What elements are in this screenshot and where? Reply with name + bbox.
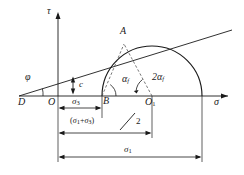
dimension-sigma3-arrow-right: [96, 106, 102, 110]
angle-label-two-alpha-f-sub: f: [162, 75, 164, 82]
sigma-axis-arrowhead: [221, 93, 228, 98]
angle-arc-alpha-f: [110, 85, 116, 96]
dimension-sigma1-arrow-left: [59, 155, 65, 159]
dimension-label-center-divisor: 2: [136, 117, 141, 126]
fraction-slash: [120, 113, 135, 130]
point-label-O: O: [48, 97, 55, 107]
angle-label-alpha-f: αf: [122, 74, 129, 85]
dimension-label-sigma1-sub: 1: [128, 147, 131, 154]
tau-axis-arrowhead: [56, 12, 61, 19]
chord-B-to-A-dashed: [102, 44, 124, 96]
angle-label-alpha-f-sub: f: [127, 77, 129, 84]
cohesion-arrow-head-down: [71, 89, 75, 95]
dimension-label-sigma1: σ1: [124, 145, 132, 155]
dimension-label-sigma3: σ3: [72, 97, 80, 107]
point-label-D: D: [18, 97, 25, 107]
failure-envelope-line: [19, 30, 232, 96]
mohr-circle-figure: τ σ D O B A O1 φ αf 2αf c σ3 (σ1+σ3) 2 σ…: [0, 0, 244, 175]
point-label-O1-sub: 1: [152, 100, 155, 107]
dimension-label-sigma3-sub: 3: [76, 99, 79, 106]
dimension-center-arrow-right: [146, 131, 152, 135]
cohesion-label: c: [79, 80, 83, 89]
dimension-sigma1-arrow-right: [196, 155, 202, 159]
angle-label-two-alpha-f-base: 2α: [152, 71, 162, 82]
dimension-label-center-expr: (σ1+σ3): [70, 117, 94, 126]
paren-close: ): [92, 116, 95, 125]
angle-label-phi: φ: [25, 72, 31, 82]
tau-axis-label: τ: [47, 6, 51, 16]
point-label-O1: O1: [145, 97, 155, 108]
angle-arc-phi: [42, 89, 43, 96]
point-label-B: B: [103, 96, 109, 106]
dimension-center-arrow-left: [59, 131, 65, 135]
point-label-A: A: [120, 26, 126, 36]
sigma-axis-label: σ: [214, 97, 219, 107]
angle-arc-two-alpha-f: [136, 80, 143, 92]
angle-label-two-alpha-f: 2αf: [152, 72, 164, 83]
dimension-sigma3-arrow-left: [59, 106, 65, 110]
